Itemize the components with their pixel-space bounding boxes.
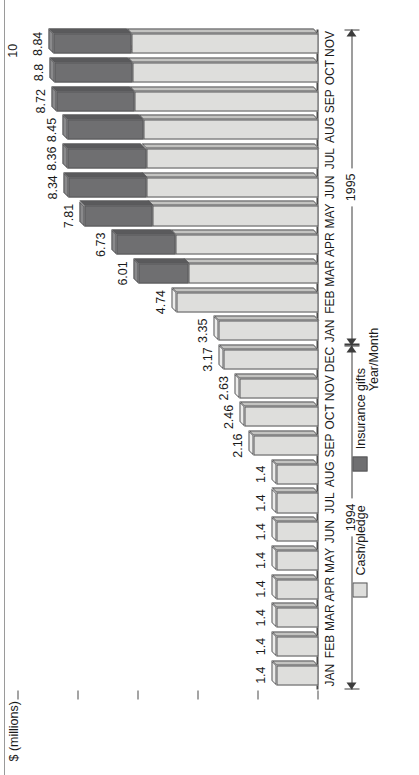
- bar-value-label: 1.4: [253, 666, 267, 683]
- bracket-cap-right: [344, 29, 359, 30]
- bar-top-cap: [48, 28, 53, 53]
- bar-segment-insurance: [68, 177, 147, 197]
- bar-top-cap: [63, 172, 68, 197]
- bar-OCT-9: 2.46: [244, 406, 318, 426]
- value-tick-6: [137, 690, 138, 699]
- bar-top-cap: [271, 487, 276, 512]
- bar-segment-cash: [276, 636, 318, 656]
- bar-FEB-1: 1.4: [276, 636, 318, 656]
- bar-side-cash: [126, 28, 318, 33]
- bar-SEP-8: 2.16: [253, 435, 318, 455]
- bar-FEB-13: 4.74: [176, 292, 318, 312]
- category-label-AUG-7: AUG: [322, 459, 336, 488]
- bar-segment-cash: [276, 464, 318, 484]
- bar-value-label: 8.84: [30, 31, 44, 55]
- bar-value-label: 1.4: [253, 609, 267, 626]
- bar-value-label: 1.4: [253, 465, 267, 482]
- bar-side-insurance: [111, 229, 175, 234]
- bar-side-cash: [129, 86, 318, 91]
- bar-segment-cash: [223, 349, 318, 369]
- bar-value-label: 7.81: [61, 203, 75, 227]
- category-label-OCT-9: OCT: [322, 402, 336, 431]
- legend-item-cash: Cash/pledge: [352, 505, 367, 597]
- bar-MAY-16: 7.81: [84, 206, 318, 226]
- category-label-FEB-13: FEB: [322, 287, 336, 316]
- bar-top-cap: [271, 545, 276, 570]
- bar-value-label: 1.4: [253, 580, 267, 597]
- bar-top-cap: [49, 57, 54, 82]
- category-axis-title: Year/Month: [366, 29, 380, 689]
- bar-NOV-10: 2.63: [239, 378, 318, 398]
- category-label-JUL-6: JUL: [322, 488, 336, 517]
- bar-top-cap: [218, 344, 223, 369]
- bar-segment-cash: [175, 234, 318, 254]
- bracket-cap-left: [344, 688, 359, 689]
- bar-JAN-0: 1.4: [276, 665, 318, 685]
- category-label-JUN-17: JUN: [322, 173, 336, 202]
- bar-segment-cash: [132, 62, 318, 82]
- bar-side-cash: [127, 57, 318, 62]
- bar-side-insurance: [63, 172, 147, 177]
- bar-side-cash: [234, 373, 318, 378]
- bar-side-cash: [271, 574, 318, 579]
- bar-value-label: 6.73: [93, 232, 107, 256]
- bar-JUN-5: 1.4: [276, 521, 318, 541]
- bar-AUG-19: 8.45: [67, 119, 318, 139]
- value-tick-4: [197, 690, 198, 699]
- bar-value-label: 3.17: [200, 347, 214, 371]
- bar-APR-3: 1.4: [276, 579, 318, 599]
- category-label-NOV-10: NOV: [322, 373, 336, 402]
- bar-segment-cash: [244, 406, 318, 426]
- bar-top-cap: [62, 143, 67, 168]
- value-tick-10: [17, 690, 18, 699]
- bar-segment-insurance: [53, 33, 131, 53]
- category-label-JAN-0: JAN: [322, 660, 336, 689]
- bar-NOV-22: 8.84: [53, 33, 318, 53]
- bar-top-cap: [234, 373, 239, 398]
- bracket-label-1995: 1995: [343, 168, 357, 206]
- bar-OCT-21: 8.8: [54, 62, 318, 82]
- category-label-FEB-1: FEB: [322, 632, 336, 661]
- bar-segment-cash: [134, 91, 318, 111]
- bar-segment-insurance: [67, 119, 143, 139]
- bar-value-label: 1.4: [253, 637, 267, 654]
- bar-value-label: 8.36: [44, 146, 58, 170]
- bar-value-label: 8.34: [45, 175, 59, 199]
- bar-DEC-11: 3.17: [223, 349, 318, 369]
- bar-top-cap: [271, 459, 276, 484]
- bar-top-cap: [213, 315, 218, 340]
- bar-side-cash: [271, 631, 318, 636]
- bar-segment-cash: [146, 177, 318, 197]
- bar-segment-cash: [276, 521, 318, 541]
- bar-side-cash: [213, 315, 319, 320]
- bar-top-cap: [79, 201, 84, 226]
- bar-value-label: 4.74: [153, 289, 167, 313]
- bar-value-label: 8.45: [44, 117, 58, 141]
- bar-segment-cash: [218, 320, 319, 340]
- bar-side-cash: [248, 430, 318, 435]
- bar-SEP-20: 8.72: [56, 91, 318, 111]
- bar-segment-insurance: [116, 234, 175, 254]
- bar-side-insurance: [51, 86, 134, 91]
- bar-side-cash: [171, 287, 318, 292]
- category-label-AUG-19: AUG: [322, 115, 336, 144]
- bar-side-insurance: [48, 28, 131, 33]
- bar-value-label: 1.4: [253, 494, 267, 511]
- value-tick-2: [257, 690, 258, 699]
- stacked-bar-chart: $ (millions) 0246810 1.41.41.41.41.41.41…: [0, 0, 419, 775]
- bar-top-cap: [239, 401, 244, 426]
- category-label-SEP-20: SEP: [322, 86, 336, 115]
- bar-side-cash: [141, 172, 318, 177]
- bar-value-label: 8.72: [33, 89, 47, 113]
- bar-segment-insurance: [67, 148, 145, 168]
- value-axis-title: $ (millions): [6, 701, 20, 761]
- bar-side-cash: [218, 344, 318, 349]
- bar-side-cash: [271, 602, 318, 607]
- bar-side-cash: [239, 401, 318, 406]
- bar-top-cap: [271, 516, 276, 541]
- bar-top-cap: [62, 114, 67, 139]
- bar-segment-cash: [176, 292, 318, 312]
- bar-segment-cash: [276, 665, 318, 685]
- legend-swatch-cash: [352, 582, 367, 597]
- legend-label-cash: Cash/pledge: [353, 505, 367, 575]
